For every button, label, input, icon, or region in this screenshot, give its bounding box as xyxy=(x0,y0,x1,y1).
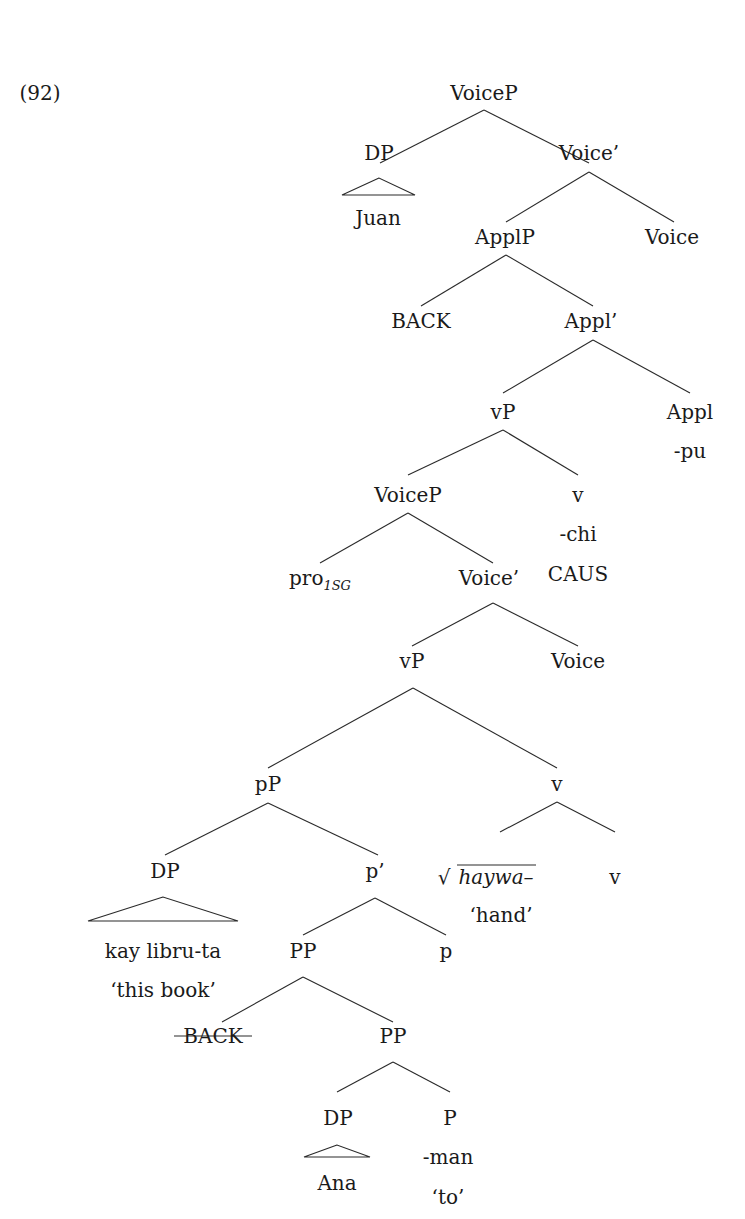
leaf-ana: Ana xyxy=(316,1171,356,1195)
syntax-tree: (92) xyxy=(0,0,745,1219)
node-pp-lower: PP xyxy=(380,1024,407,1048)
node-appl-bar: Appl’ xyxy=(564,309,618,333)
root-haywa: haywa– xyxy=(458,865,533,889)
node-voicep-root: VoiceP xyxy=(449,81,518,105)
gloss-to: ‘to’ xyxy=(432,1185,465,1209)
node-p-bar: p’ xyxy=(365,859,384,883)
morph-man: -man xyxy=(423,1145,474,1169)
node-pp-little: pP xyxy=(255,772,281,796)
node-dp-ana: DP xyxy=(323,1106,353,1130)
node-voice-top: Voice xyxy=(644,225,699,249)
node-appl: Appl xyxy=(666,400,713,424)
leaf-juan: Juan xyxy=(353,206,401,230)
sqrt-icon: √ xyxy=(438,865,451,889)
node-pro-1sg: pro1SG xyxy=(289,566,351,593)
node-vp-low: vP xyxy=(399,649,425,673)
node-applp: ApplP xyxy=(474,225,535,249)
morph-pu: -pu xyxy=(674,439,707,463)
gloss-caus: CAUS xyxy=(548,562,608,586)
node-p: p xyxy=(440,939,453,963)
node-voice-low: Voice xyxy=(550,649,605,673)
node-pp-upper: PP xyxy=(290,939,317,963)
node-v-caus: v xyxy=(571,483,584,507)
node-back-struck: BACK xyxy=(183,1024,243,1048)
gloss-this-book: ‘this book’ xyxy=(110,978,216,1002)
node-v-low: v xyxy=(608,865,621,889)
node-P: P xyxy=(443,1106,456,1130)
node-dp-book: DP xyxy=(150,859,180,883)
example-number: (92) xyxy=(19,81,60,105)
morph-chi: -chi xyxy=(559,522,596,546)
node-voicep-low: VoiceP xyxy=(373,483,442,507)
tree-labels: VoiceP DP Juan Voice’ ApplP Voice BACK A… xyxy=(105,81,713,1209)
node-back: BACK xyxy=(391,309,451,333)
gloss-hand: ‘hand’ xyxy=(469,903,532,927)
node-v-mid: v xyxy=(550,772,563,796)
node-voice-bar-top: Voice’ xyxy=(558,141,619,165)
node-dp-juan: DP xyxy=(364,141,394,165)
node-voice-bar-low: Voice’ xyxy=(458,566,519,590)
leaf-kay-libru-ta: kay libru-ta xyxy=(105,939,222,963)
node-vp-top: vP xyxy=(490,400,516,424)
